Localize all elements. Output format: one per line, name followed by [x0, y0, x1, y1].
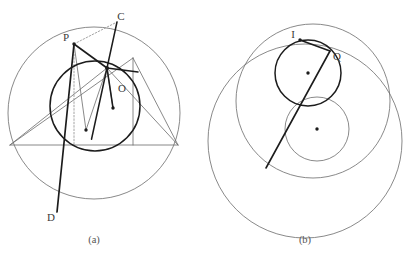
panel-a-segment-p-center1 — [74, 44, 86, 130]
panel-b-point-i-marker — [298, 38, 301, 41]
panel-a-incircle — [50, 61, 140, 151]
panel-b-label-q: Q — [333, 50, 341, 62]
panel-a-line-c-through-hub — [92, 22, 117, 139]
panel-a-center-marker-2 — [111, 106, 114, 109]
panel-a-label-c: C — [117, 10, 124, 22]
panel-b-caption: (b) — [299, 234, 312, 246]
panel-a-hub-marker — [105, 66, 109, 70]
panel-b-outer-circle — [208, 44, 402, 238]
panel-a-chord-p-d — [57, 44, 74, 212]
panel-b-medium-circle — [236, 24, 390, 178]
panel-a-circumcircle — [8, 27, 180, 199]
panel-b-label-i: I — [291, 28, 295, 40]
panel-b-center-marker-lower — [315, 127, 318, 130]
panel-a-center-marker-1 — [84, 128, 87, 131]
panel-a-ray-to-center-1 — [86, 68, 107, 130]
panel-a-label-d: D — [47, 211, 55, 223]
panel-a-point-p-marker — [72, 42, 75, 45]
figure-container: PCDO(a)IQ(b) — [0, 0, 417, 260]
panel-a-label-p: P — [63, 31, 69, 43]
panel-a-segment-hub-right — [107, 68, 178, 145]
geometry-figure: PCDO(a)IQ(b) — [0, 0, 417, 260]
panel-a-dotted-p-to-c — [74, 22, 117, 44]
panel-a-caption: (a) — [88, 234, 100, 246]
panel-b-center-marker-upper — [306, 71, 309, 74]
panel-a-label-o: O — [118, 82, 126, 94]
